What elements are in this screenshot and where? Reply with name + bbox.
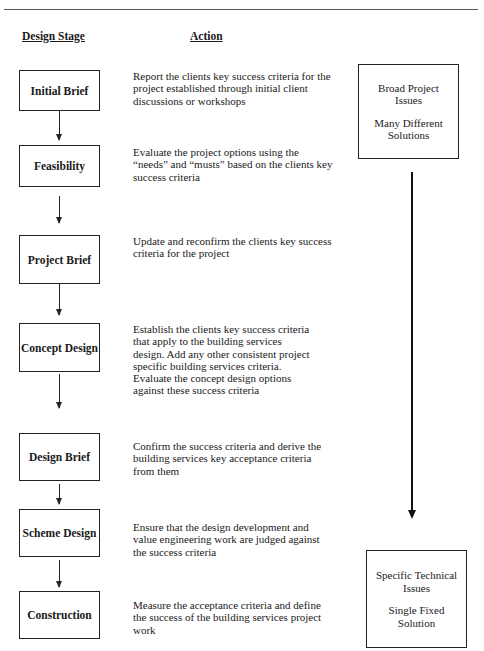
page-top-rule bbox=[4, 9, 478, 10]
arrow-down-icon bbox=[59, 284, 60, 315]
action-header: Action bbox=[190, 30, 223, 42]
scope-broad-issues: Broad Project Issues bbox=[359, 82, 458, 107]
stage-concept-design: Concept Design bbox=[19, 323, 100, 372]
design-stage-header: Design Stage bbox=[22, 30, 85, 42]
stage-project-brief: Project Brief bbox=[19, 235, 100, 284]
action-feasibility: Evaluate the project options using the “… bbox=[133, 146, 333, 183]
arrow-down-icon bbox=[59, 111, 60, 140]
narrowing-arrow-icon bbox=[411, 172, 413, 517]
action-construction: Measure the acceptance criteria and defi… bbox=[133, 599, 333, 636]
action-scheme-design: Ensure that the design development and v… bbox=[133, 521, 333, 558]
scope-many-solutions: Many Different Solutions bbox=[359, 117, 458, 142]
action-concept-design: Establish the clients key success criter… bbox=[133, 323, 313, 397]
stage-scheme-design: Scheme Design bbox=[19, 509, 100, 557]
stage-design-brief: Design Brief bbox=[19, 433, 100, 481]
arrow-down-icon bbox=[59, 560, 60, 587]
scope-box-specific: Specific Technical Issues Single Fixed S… bbox=[366, 550, 467, 648]
action-project-brief: Update and reconfirm the clients key suc… bbox=[133, 235, 333, 260]
arrow-down-icon bbox=[59, 196, 60, 223]
scope-single-solution: Single Fixed Solution bbox=[367, 604, 466, 629]
stage-feasibility: Feasibility bbox=[19, 145, 100, 187]
arrow-down-icon bbox=[59, 374, 60, 408]
scope-box-broad: Broad Project Issues Many Different Solu… bbox=[358, 64, 459, 159]
action-design-brief: Confirm the success criteria and derive … bbox=[133, 440, 333, 477]
action-initial-brief: Report the clients key success criteria … bbox=[133, 70, 333, 107]
scope-specific-issues: Specific Technical Issues bbox=[367, 569, 466, 594]
stage-construction: Construction bbox=[19, 591, 100, 639]
stage-initial-brief: Initial Brief bbox=[19, 70, 100, 111]
arrow-down-icon bbox=[59, 484, 60, 504]
